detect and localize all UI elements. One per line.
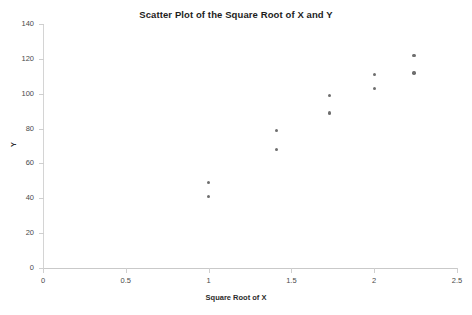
- y-tick-label: 0: [0, 264, 34, 272]
- y-tick-label: 80: [0, 125, 34, 133]
- x-tick-mark: [126, 268, 127, 273]
- y-tick-label: 140: [0, 20, 34, 28]
- x-tick-label: 0.5: [106, 277, 146, 285]
- x-tick-mark: [43, 268, 44, 273]
- x-tick-mark: [209, 268, 210, 273]
- y-tick-label: 60: [0, 159, 34, 167]
- x-tick-label: 0: [23, 277, 63, 285]
- x-tick-mark: [291, 268, 292, 273]
- data-point: [328, 111, 331, 114]
- x-tick-label: 2.5: [437, 277, 472, 285]
- chart-title: Scatter Plot of the Square Root of X and…: [0, 9, 472, 20]
- x-tick-label: 1: [189, 277, 229, 285]
- x-axis-line: [43, 268, 458, 269]
- data-point: [412, 71, 415, 74]
- data-point: [412, 54, 415, 57]
- x-tick-mark: [457, 268, 458, 273]
- y-tick-label: 20: [0, 229, 34, 237]
- y-tick-label: 40: [0, 194, 34, 202]
- y-tick-label: 100: [0, 90, 34, 98]
- data-point: [373, 87, 376, 90]
- x-axis-title: Square Root of X: [0, 293, 472, 302]
- y-axis-title: Y: [9, 134, 18, 156]
- scatter-chart: Scatter Plot of the Square Root of X and…: [0, 0, 472, 315]
- x-tick-mark: [374, 268, 375, 273]
- x-tick-label: 2: [354, 277, 394, 285]
- x-tick-label: 1.5: [271, 277, 311, 285]
- y-tick-label: 120: [0, 55, 34, 63]
- plot-area: [43, 24, 457, 268]
